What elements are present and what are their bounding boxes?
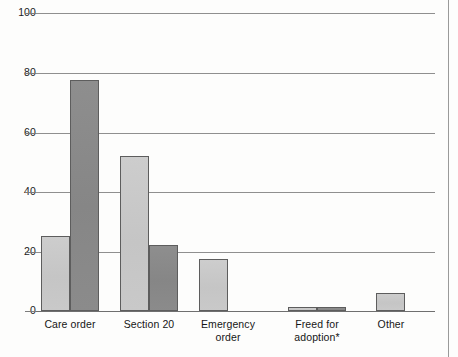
bar-care-order-series-1 (41, 236, 70, 311)
x-axis-label-care-order: Care order (28, 318, 112, 331)
bar-freed-for-adoption-series-1 (288, 307, 317, 311)
x-axis-label-section-20-line-1: Section 20 (107, 318, 191, 331)
bar-care-order-series-2 (70, 80, 99, 311)
x-axis-label-freed-for-adoption-line-1: Freed for (275, 318, 359, 331)
x-axis-baseline (36, 311, 435, 312)
y-tick-stub-100 (25, 13, 36, 14)
x-axis-label-emergency-order: Emergency order (186, 318, 270, 343)
y-tick-stub-60 (25, 133, 36, 134)
gridline-80 (36, 73, 435, 74)
x-axis-label-freed-for-adoption-line-2: adoption* (275, 331, 359, 344)
bar-section-20-series-1 (120, 156, 149, 311)
bar-section-20-series-2 (149, 245, 178, 311)
x-axis-label-other-line-1: Other (349, 318, 433, 331)
x-axis-label-freed-for-adoption: Freed for adoption* (275, 318, 359, 343)
plot-area: 100 80 60 40 20 0 (0, 0, 458, 357)
x-axis-label-care-order-line-1: Care order (28, 318, 112, 331)
y-tick-stub-80 (25, 73, 36, 74)
y-tick-stub-0 (25, 311, 36, 312)
bar-other-series-1 (376, 293, 405, 311)
bar-freed-for-adoption-series-2 (317, 307, 346, 311)
x-axis-label-section-20: Section 20 (107, 318, 191, 331)
bar-chart-figure: 100 80 60 40 20 0 (0, 0, 458, 357)
y-tick-stub-40 (25, 192, 36, 193)
x-axis-label-other: Other (349, 318, 433, 331)
gridline-100 (36, 13, 435, 14)
x-axis-label-emergency-order-line-2: order (186, 331, 270, 344)
x-axis-label-emergency-order-line-1: Emergency (186, 318, 270, 331)
y-tick-stub-20 (25, 252, 36, 253)
bar-emergency-order-series-1 (199, 259, 228, 311)
